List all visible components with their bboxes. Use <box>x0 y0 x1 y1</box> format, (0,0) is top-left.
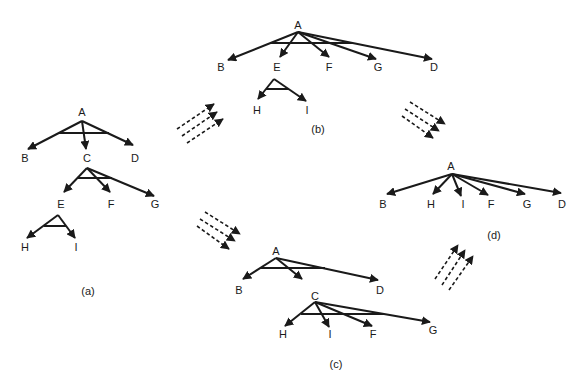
caption-c: (c) <box>330 358 343 370</box>
node-d-D: D <box>558 198 566 210</box>
tree-a-edges <box>27 121 154 238</box>
node-d-F: F <box>488 198 495 210</box>
node-d-I: I <box>461 198 464 210</box>
node-b-F: F <box>326 61 333 73</box>
node-b-A: A <box>294 19 302 31</box>
node-b-B: B <box>217 61 224 73</box>
edge-a-C-G <box>87 168 154 196</box>
panel-d: A B H I F G D (d) <box>379 160 566 241</box>
node-a-H: H <box>21 241 29 253</box>
caption-a: (a) <box>81 285 94 297</box>
node-a-F: F <box>108 198 115 210</box>
dashed-arrow-icon <box>442 250 465 285</box>
caption-b: (b) <box>311 123 324 135</box>
node-c-H: H <box>279 328 287 340</box>
node-d-B: B <box>379 198 386 210</box>
node-a-D: D <box>131 152 139 164</box>
node-c-F: F <box>370 328 377 340</box>
transition-arrow-c-to-d <box>435 245 473 290</box>
transition-arrow-a-to-b <box>177 104 223 143</box>
transition-arrow-a-to-c <box>197 212 240 249</box>
node-d-A: A <box>447 160 455 172</box>
node-c-B: B <box>235 284 242 296</box>
node-b-I: I <box>305 104 308 116</box>
dashed-arrow-icon <box>205 212 240 234</box>
dashed-arrow-icon <box>402 116 433 138</box>
node-b-D: D <box>430 61 438 73</box>
dashed-arrow-icon <box>177 104 214 129</box>
node-a-E: E <box>57 198 64 210</box>
tree-transformation-diagram: A B C D E F G H I (a) A B E F G D H I (b… <box>0 0 582 384</box>
node-a-G: G <box>151 198 160 210</box>
transition-arrow-b-to-d <box>402 102 445 138</box>
dashed-arrow-icon <box>410 102 445 124</box>
dashed-arrow-icon <box>449 256 473 290</box>
node-a-C: C <box>83 152 91 164</box>
dashed-arrow-icon <box>182 112 217 136</box>
node-c-C: C <box>311 290 319 302</box>
node-b-G: G <box>374 61 383 73</box>
edge-c-C-G <box>315 302 430 322</box>
node-d-G: G <box>523 198 532 210</box>
node-a-A: A <box>78 106 86 118</box>
node-c-G: G <box>429 324 438 336</box>
panel-a: A B C D E F G H I (a) <box>21 106 159 297</box>
node-a-B: B <box>21 152 28 164</box>
node-d-H: H <box>427 198 435 210</box>
node-b-H: H <box>253 104 261 116</box>
node-c-D: D <box>376 284 384 296</box>
node-c-I: I <box>328 328 331 340</box>
edge-a-A-B <box>28 121 82 149</box>
node-a-I: I <box>74 241 77 253</box>
node-c-A: A <box>272 245 280 257</box>
caption-d: (d) <box>487 229 500 241</box>
edge-a-C-F <box>87 168 110 192</box>
dashed-arrow-icon <box>405 109 439 131</box>
edge-a-C-E <box>64 168 87 192</box>
edge-a-A-C <box>82 121 86 149</box>
dashed-arrow-icon <box>197 226 229 249</box>
dashed-arrow-icon <box>200 219 235 241</box>
dashed-arrow-icon <box>187 119 223 143</box>
dashed-arrow-icon <box>435 245 458 279</box>
panel-c: A B D C H I F G (c) <box>235 245 437 370</box>
node-b-E: E <box>273 61 280 73</box>
